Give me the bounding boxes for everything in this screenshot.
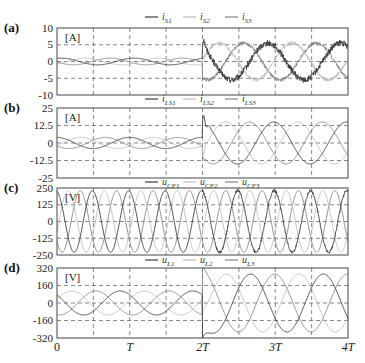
x-axis: 0T2T3T4T — [54, 340, 356, 354]
y-tick-label: 250 — [37, 182, 54, 194]
y-tick-label: -10 — [38, 89, 53, 101]
chart-panel-d: 3201600-160-320(d)[V]uL1uL2uL3 — [4, 254, 348, 344]
unit-label: [A] — [65, 31, 80, 43]
y-tick-label: 0 — [48, 215, 54, 227]
legend-item-u-l3: uL3 — [242, 254, 255, 268]
legend-item-u-l1: uL1 — [162, 254, 174, 268]
x-tick-label: 2T — [196, 340, 210, 354]
unit-label: [V] — [65, 271, 80, 283]
y-tick-label: -250 — [33, 249, 54, 261]
unit-label: [A] — [65, 111, 80, 123]
y-tick-label: 0 — [48, 297, 54, 309]
y-tick-label: 25 — [42, 102, 54, 114]
panel-label: (d) — [4, 260, 20, 275]
y-tick-label: 125 — [37, 198, 54, 210]
y-tick-label: 160 — [37, 279, 54, 291]
y-tick-label: 0 — [48, 137, 54, 149]
y-tick-label: -12.5 — [30, 154, 53, 166]
y-tick-label: 5 — [48, 38, 54, 50]
y-tick-label: -320 — [33, 332, 54, 344]
figure: 1050-5-10(a)[A]iS1iS2iS32512.50-12.5-25(… — [0, 0, 365, 363]
legend-item-i-s2: iS2 — [200, 11, 210, 25]
x-tick-label: 0 — [54, 340, 60, 354]
legend-item-i-s1: iS1 — [162, 11, 172, 25]
legend-item-i-s3: iS3 — [242, 11, 252, 25]
x-tick-label: 3T — [268, 340, 283, 354]
unit-label: [V] — [65, 191, 80, 203]
legend-item-u-l2: uL2 — [200, 254, 213, 268]
x-tick-label: 4T — [342, 340, 356, 354]
chart-panel-b: 2512.50-12.5-25(b)[A]iLS1iLS2iLS3 — [4, 93, 348, 184]
panel-label: (c) — [4, 180, 18, 195]
y-tick-label: 320 — [37, 262, 54, 274]
panel-label: (b) — [4, 100, 20, 115]
y-tick-label: 0 — [48, 55, 54, 67]
chart-panel-a: 1050-5-10(a)[A]iS1iS2iS3 — [4, 11, 348, 101]
y-tick-label: -125 — [33, 232, 54, 244]
chart-panel-c: 2501250-125-250(c)[V]uCF1uCF2uCF3 — [4, 176, 348, 261]
y-tick-label: 10 — [42, 22, 54, 34]
y-tick-label: -5 — [44, 72, 54, 84]
panel-label: (a) — [4, 20, 19, 35]
x-tick-label: T — [126, 340, 134, 354]
y-tick-label: 12.5 — [34, 119, 54, 131]
y-tick-label: -160 — [33, 314, 54, 326]
